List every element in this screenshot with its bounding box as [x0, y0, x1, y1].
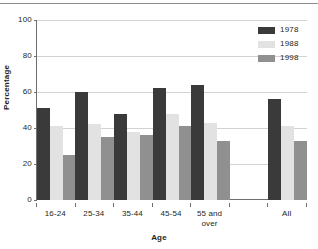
x-axis-tick: [229, 203, 230, 207]
bar-1978-55-and-over: [191, 85, 204, 200]
bar-1988-25-34: [88, 124, 101, 200]
legend-swatch-1998: [258, 55, 275, 62]
bar-1988-16-24: [50, 126, 63, 200]
y-axis-tick-label: 40: [23, 124, 32, 132]
y-axis-tick-label: 20: [23, 160, 32, 168]
y-axis-tick: [34, 200, 37, 201]
bar-1988-45-54: [166, 114, 179, 200]
legend-item-1988: 1988: [258, 37, 299, 51]
bar-1978-45-54: [153, 88, 166, 200]
y-axis-tick-label: 80: [23, 52, 32, 60]
y-axis-tick-label: 100: [18, 16, 32, 24]
bar-1978-All: [268, 99, 281, 200]
x-axis-category-label: All: [282, 209, 291, 219]
bar-1998-55-and-over: [217, 141, 230, 200]
x-axis-tick: [190, 203, 191, 207]
bar-chart-figure: Percentage 020406080100 16-2425-3435-444…: [0, 0, 318, 249]
bar-1978-35-44: [114, 114, 127, 200]
x-axis-tick: [75, 203, 76, 207]
x-axis-tick: [152, 203, 153, 207]
legend-item-1998: 1998: [258, 51, 299, 65]
bar-1998-All: [294, 141, 307, 200]
x-axis-title: Age: [0, 233, 318, 242]
bar-1978-16-24: [37, 108, 50, 200]
bar-1978-25-34: [75, 92, 88, 200]
x-axis-category-labels: 16-2425-3435-4445-5455 and overAll: [36, 203, 306, 233]
legend-item-1978: 1978: [258, 23, 299, 37]
x-axis-tick: [267, 203, 268, 207]
x-axis-category-label: 45-54: [161, 209, 182, 219]
y-axis-title: Percentage: [2, 65, 11, 110]
bar-1988-55-and-over: [204, 123, 217, 200]
y-axis-tick-label: 0: [27, 196, 32, 204]
legend-label-1988: 1988: [280, 40, 299, 48]
bar-1988-35-44: [127, 132, 140, 200]
legend-swatch-1988: [258, 41, 275, 48]
x-axis-category-label: 55 and over: [197, 209, 222, 229]
top-divider-rule: [0, 3, 318, 4]
bar-1998-45-54: [179, 126, 192, 200]
x-axis-category-label: 25-34: [83, 209, 104, 219]
bar-1988-All: [281, 126, 294, 200]
y-axis-tick-label: 60: [23, 88, 32, 96]
x-axis-tick: [306, 203, 307, 207]
bar-1998-25-34: [101, 137, 114, 200]
gridline: [37, 200, 307, 201]
bar-1998-35-44: [140, 135, 153, 200]
legend-swatch-1978: [258, 27, 275, 34]
chart-legend: 197819881998: [258, 23, 299, 65]
legend-label-1998: 1998: [280, 54, 299, 62]
x-axis-tick: [36, 203, 37, 207]
x-axis-category-label: 16-24: [45, 209, 66, 219]
legend-label-1978: 1978: [280, 26, 299, 34]
x-axis-category-label: 35-44: [122, 209, 143, 219]
bar-1998-16-24: [63, 155, 76, 200]
x-axis-tick: [113, 203, 114, 207]
